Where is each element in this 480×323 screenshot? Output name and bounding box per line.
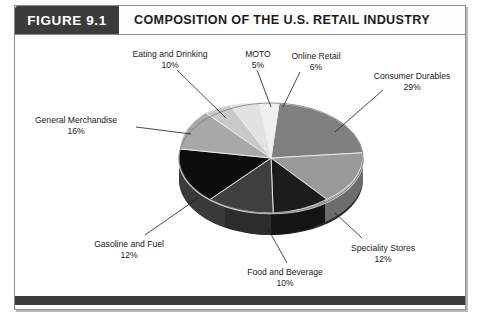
figure-container: FIGURE 9.1 COMPOSITION OF THE U.S. RETAI… bbox=[14, 5, 466, 310]
pie-chart-svg: Eating and Drinking 10% MOTO 5% Online R… bbox=[15, 35, 467, 311]
leader-online-retail bbox=[283, 72, 300, 107]
label-eating-and-drinking-name: Eating and Drinking bbox=[132, 49, 207, 59]
slice-consumer-durables bbox=[271, 103, 363, 158]
label-speciality-stores-name: Speciality Stores bbox=[351, 243, 415, 253]
label-online-retail-value: 6% bbox=[310, 62, 323, 72]
leader-general-merchandise bbox=[136, 127, 191, 134]
leader-moto bbox=[257, 70, 271, 107]
leader-eating-and-drinking bbox=[177, 70, 226, 118]
label-general-merchandise-value: 16% bbox=[67, 126, 85, 136]
label-moto-name: MOTO bbox=[245, 49, 271, 59]
label-consumer-durables-value: 29% bbox=[403, 82, 421, 92]
figure-title: COMPOSITION OF THE U.S. RETAIL INDUSTRY bbox=[119, 6, 465, 34]
pie-3d-body bbox=[179, 103, 363, 235]
label-eating-and-drinking-value: 10% bbox=[161, 60, 179, 70]
label-speciality-stores-value: 12% bbox=[374, 254, 392, 264]
label-consumer-durables-name: Consumer Durables bbox=[374, 71, 450, 81]
label-general-merchandise-name: General Merchandise bbox=[35, 115, 117, 125]
figure-footer-bar bbox=[15, 296, 465, 305]
label-online-retail-name: Online Retail bbox=[291, 51, 340, 61]
figure-number-badge: FIGURE 9.1 bbox=[15, 6, 119, 34]
label-food-and-beverage-name: Food and Beverage bbox=[247, 267, 323, 277]
label-food-and-beverage-value: 10% bbox=[276, 278, 294, 288]
pie-chart-area: Eating and Drinking 10% MOTO 5% Online R… bbox=[15, 35, 465, 311]
label-gasoline-and-fuel-name: Gasoline and Fuel bbox=[94, 239, 164, 249]
leader-speciality-stores bbox=[335, 213, 362, 238]
figure-header: FIGURE 9.1 COMPOSITION OF THE U.S. RETAI… bbox=[15, 6, 465, 35]
leader-gasoline-and-fuel bbox=[145, 198, 198, 235]
leader-consumer-durables bbox=[335, 90, 383, 132]
label-gasoline-and-fuel-value: 12% bbox=[120, 250, 138, 260]
label-moto-value: 5% bbox=[252, 60, 265, 70]
